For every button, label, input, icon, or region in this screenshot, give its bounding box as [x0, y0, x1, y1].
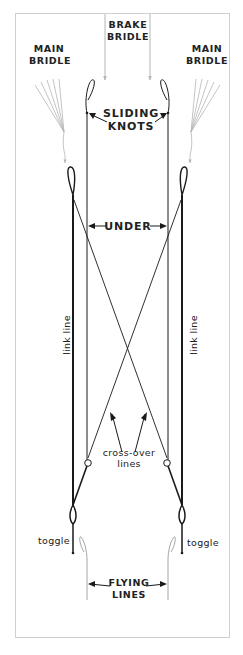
label-main-bridle-right-1: MAIN: [192, 43, 223, 54]
label-link-line-right: link line: [188, 315, 199, 355]
label-main-bridle-left-2: BRIDLE: [29, 55, 71, 66]
ring-left: [85, 460, 92, 467]
arrowheads: [88, 113, 167, 587]
label-toggle-right: toggle: [187, 537, 219, 548]
label-flying-lines-1: FLYING: [109, 577, 150, 588]
label-toggle-left: toggle: [38, 535, 70, 546]
label-sliding-knots-1: SLIDING: [103, 107, 159, 120]
label-sliding-knots-2: KNOTS: [108, 120, 155, 133]
ring-right: [164, 460, 171, 467]
cross-over-lines: [74, 200, 181, 458]
label-link-line-left: link line: [61, 315, 72, 355]
label-cross-over-1: cross-over: [103, 447, 155, 458]
control-line-diagram: BRAKE BRIDLE MAIN BRIDLE MAIN BRIDLE SLI…: [0, 0, 243, 655]
label-main-bridle-right-2: BRIDLE: [186, 55, 228, 66]
label-brake-bridle-2: BRIDLE: [107, 31, 149, 42]
label-brake-bridle-1: BRAKE: [109, 19, 148, 30]
label-flying-lines-2: LINES: [112, 589, 146, 600]
toggle-right: [179, 505, 185, 554]
brake-lines: [86, 80, 169, 460]
sliding-knot-left: [86, 112, 89, 115]
label-cross-over-2: lines: [117, 458, 141, 469]
label-main-bridle-left-1: MAIN: [34, 43, 65, 54]
sliding-knot-right: [167, 112, 170, 115]
toggle-left: [70, 505, 76, 554]
main-bridle-left: [35, 79, 65, 163]
label-under: UNDER: [104, 220, 151, 233]
main-bridle-right: [190, 79, 220, 163]
